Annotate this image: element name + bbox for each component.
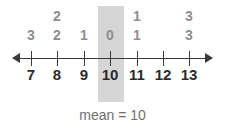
tick-mark-9 <box>84 51 85 66</box>
axis-left-arrow-icon <box>12 53 20 63</box>
tick-mark-8 <box>57 51 58 66</box>
axis-label-10: 10 <box>95 66 125 84</box>
deviation-bottom-11: 1 <box>122 27 152 43</box>
deviation-top-13: 3 <box>174 8 204 24</box>
deviation-bottom-10: 0 <box>95 27 125 43</box>
axis-label-8: 8 <box>42 66 72 84</box>
tick-mark-7 <box>31 51 32 66</box>
mean-caption: mean = 10 <box>0 106 225 124</box>
deviation-top-8: 2 <box>42 8 72 24</box>
deviation-top-11: 1 <box>122 8 152 24</box>
tick-mark-12 <box>163 51 164 66</box>
mean-highlight-band <box>98 6 124 102</box>
tick-mark-10 <box>110 51 111 66</box>
deviation-bottom-8: 2 <box>42 27 72 43</box>
axis-right-arrow-icon <box>205 53 213 63</box>
number-line-axis <box>16 58 212 59</box>
tick-mark-11 <box>137 51 138 66</box>
axis-label-13: 13 <box>174 66 204 84</box>
mean-deviation-number-line-figure: 7 8 9 10 11 12 13 2 1 3 3 2 1 0 1 3 mean… <box>0 0 225 128</box>
tick-mark-13 <box>189 51 190 66</box>
deviation-bottom-13: 3 <box>174 27 204 43</box>
